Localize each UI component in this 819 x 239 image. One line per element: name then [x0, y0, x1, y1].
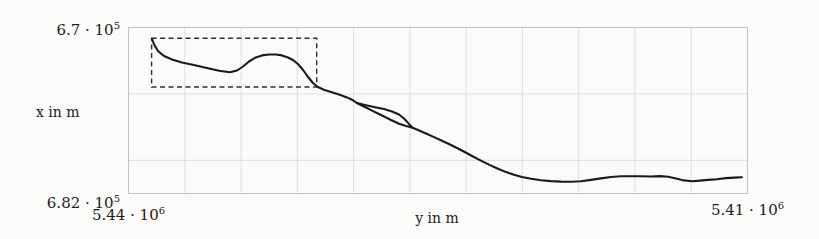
tick-exponent: 6 — [778, 200, 784, 211]
tick-exponent: 6 — [159, 205, 165, 216]
y-axis-top-tick-label: 6.7 · 105 — [0, 18, 120, 38]
line-chart-figure: 6.7 · 105 x in m 6.82 · 105 5.44 · 106 y… — [0, 0, 819, 239]
tick-value: 5.41 · 10 — [711, 201, 778, 219]
x-axis-left-tick-label: 5.44 · 106 — [68, 203, 189, 223]
x-axis-title: y in m — [397, 210, 477, 226]
tick-value: 5.44 · 10 — [92, 206, 159, 224]
zoom-region-box — [152, 38, 317, 87]
tick-value: 6.7 · 10 — [56, 21, 113, 39]
x-axis-right-tick-label: 5.41 · 106 — [687, 198, 808, 218]
tick-exponent: 5 — [114, 20, 120, 31]
plot-frame — [129, 28, 748, 194]
y-axis-title: x in m — [36, 104, 80, 120]
